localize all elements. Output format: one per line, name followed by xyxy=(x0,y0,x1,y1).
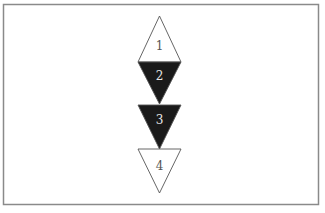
triangle-label: 2 xyxy=(156,69,164,83)
triangle-label: 1 xyxy=(156,39,164,53)
triangle-label: 4 xyxy=(156,159,164,173)
triangle-label: 3 xyxy=(156,113,164,127)
triangle-stack-diagram: 1234 xyxy=(0,0,325,213)
